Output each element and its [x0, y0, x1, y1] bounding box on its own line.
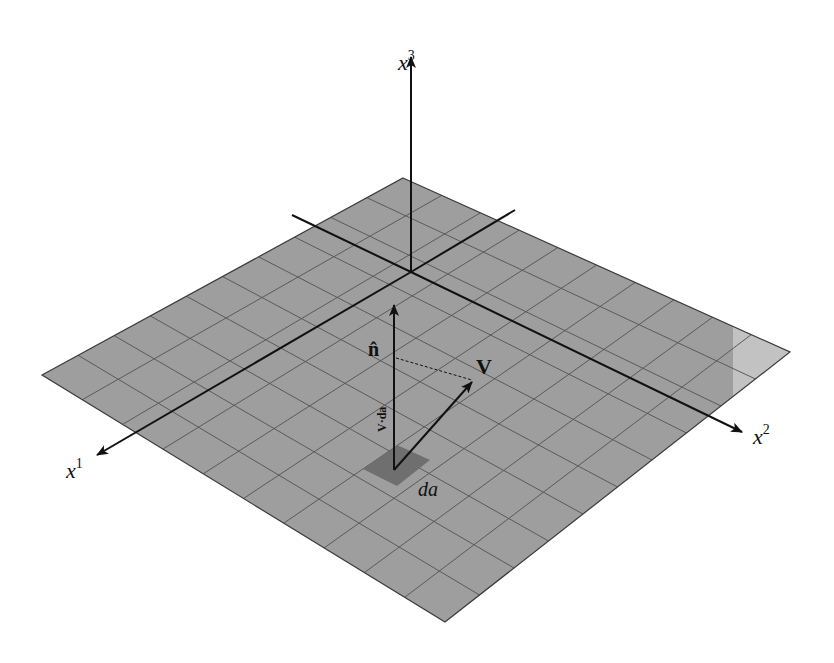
x3-label: x3 [397, 48, 415, 75]
x1-label: x1 [65, 456, 83, 483]
x2-label: x2 [752, 422, 770, 449]
plane-light-patch [733, 326, 790, 398]
surface-integral-diagram: x3 x1 x2 n̂ V V·da da [0, 0, 834, 663]
projection-label: V·da [375, 407, 389, 432]
normal-label: n̂ [368, 338, 379, 360]
da-label: da [418, 478, 438, 500]
field-label: V [476, 354, 492, 379]
